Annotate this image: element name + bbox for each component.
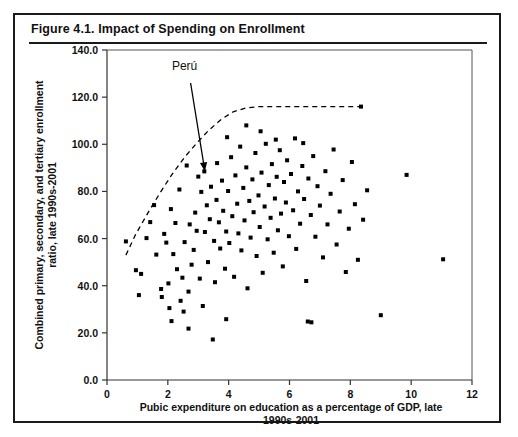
scatter-point (252, 210, 256, 214)
scatter-point (255, 254, 259, 258)
scatter-point (188, 222, 192, 226)
scatter-point (246, 286, 250, 290)
scatter-point (278, 148, 282, 152)
y-tick-label: 80.0 (78, 185, 99, 197)
scatter-point (306, 177, 310, 181)
scatter-point (139, 272, 143, 276)
scatter-point (379, 313, 383, 317)
scatter-point (361, 218, 365, 222)
scatter-point (208, 217, 212, 221)
scatter-point (192, 248, 196, 252)
scatter-point (302, 197, 306, 201)
scatter-point (291, 208, 295, 212)
scatter-point (267, 183, 271, 187)
scatter-point (258, 225, 262, 229)
scatter-point (177, 188, 181, 192)
scatter-point (227, 241, 231, 245)
scatter-point (318, 204, 322, 208)
scatter-point (195, 229, 199, 233)
x-axis-ticks: 024681012 (104, 380, 478, 400)
scatter-point (154, 253, 158, 257)
scatter-point (223, 267, 227, 271)
scatter-point (293, 136, 297, 140)
y-axis-title-line2: ratio, late 1990s-2001 (46, 162, 58, 268)
scatter-point (326, 222, 330, 226)
scatter-point (215, 161, 219, 165)
peru-annotation-label: Perú (172, 59, 197, 73)
y-tick-label: 120.0 (72, 91, 98, 103)
scatter-point (190, 263, 194, 267)
scatter-point (187, 290, 191, 294)
scatter-point (306, 320, 310, 324)
scatter-point (344, 270, 348, 274)
x-tick-label: 8 (347, 388, 353, 400)
y-tick-label: 60.0 (78, 233, 99, 245)
scatter-point (193, 211, 197, 215)
scatter-point (273, 197, 277, 201)
scatter-point (304, 279, 308, 283)
x-tick-label: 2 (165, 388, 171, 400)
scatter-point (217, 220, 221, 224)
scatter-point (218, 247, 222, 251)
scatter-point (359, 105, 363, 109)
y-axis-title-line1: Combined primary, secondary, and tertiar… (33, 80, 45, 350)
scatter-point (213, 280, 217, 284)
scatter-point (164, 241, 168, 245)
scatter-point (316, 184, 320, 188)
scatter-point (224, 230, 228, 234)
scatter-point (275, 175, 279, 179)
scatter-point (148, 220, 152, 224)
scatter-point (356, 258, 360, 262)
upper-envelope-dashed-curve (126, 107, 364, 256)
y-tick-label: 20.0 (78, 327, 99, 339)
scatter-point (281, 264, 285, 268)
scatter-point (211, 338, 215, 342)
scatter-point (298, 222, 302, 226)
scatter-point (309, 320, 313, 324)
scatter-points-group (124, 105, 445, 342)
scatter-point (124, 239, 128, 243)
scatter-point (201, 304, 205, 308)
scatter-point (272, 251, 276, 255)
scatter-point (203, 230, 207, 234)
scatter-point (209, 185, 213, 189)
scatter-point (244, 165, 248, 169)
scatter-point (263, 205, 267, 209)
scatter-point (335, 243, 339, 247)
scatter-point (282, 180, 286, 184)
scatter-point (294, 247, 298, 251)
scatter-point (441, 257, 445, 261)
x-tick-label: 0 (104, 388, 110, 400)
x-tick-label: 6 (287, 388, 293, 400)
scatter-point (274, 138, 278, 142)
scatter-point (244, 123, 248, 127)
scatter-point (171, 252, 175, 256)
scatter-point (285, 158, 289, 162)
scatter-point (206, 260, 210, 264)
scatter-point (230, 214, 234, 218)
scatter-point (261, 271, 265, 275)
scatter-point (405, 173, 409, 177)
scatter-point (212, 239, 216, 243)
figure-frame: Figure 4.1. Impact of Spending on Enroll… (13, 13, 501, 423)
scatter-point (225, 135, 229, 139)
scatter-point (162, 232, 166, 236)
y-axis-ticks: 0.020.040.060.080.0100.0120.0140.0 (72, 44, 107, 386)
scatter-point (170, 319, 174, 323)
scatter-point (249, 236, 253, 240)
scatter-point (145, 236, 149, 240)
scatter-point (233, 173, 237, 177)
scatter-point (220, 179, 224, 183)
scatter-point (175, 267, 179, 271)
scatter-point (350, 160, 354, 164)
scatter-point (179, 299, 183, 303)
scatter-chart: 0.020.040.060.080.0100.0120.0140.0 02468… (15, 15, 503, 425)
scatter-point (224, 317, 228, 321)
scatter-point (232, 275, 236, 279)
scatter-point (199, 190, 203, 194)
scatter-point (279, 212, 283, 216)
scatter-point (323, 169, 327, 173)
y-tick-label: 140.0 (72, 44, 98, 56)
scatter-point (198, 277, 202, 281)
scatter-point (247, 199, 251, 203)
